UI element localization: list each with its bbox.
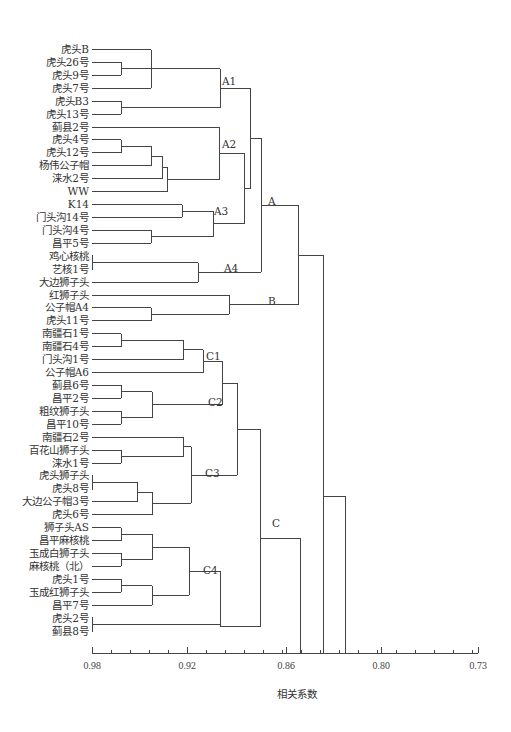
leaf-label: 虎头狮子头	[39, 469, 89, 481]
axis-tick-label: 0.73	[469, 661, 487, 671]
leaf-label: 红狮子头	[49, 289, 89, 301]
leaf-label: 虎头7号	[52, 82, 89, 94]
leaf-label: 狮子头AS	[44, 521, 89, 533]
leaf-label: 虎头11号	[46, 314, 89, 326]
leaf-label: 虎头1号	[52, 573, 89, 585]
leaf-label: 虎头6号	[52, 508, 89, 520]
leaf-label: 涞水1号	[52, 457, 89, 469]
leaf-label: 虎头12号	[46, 146, 89, 158]
x-axis	[92, 647, 478, 653]
leaf-label: 昌平10号	[46, 418, 89, 430]
leaf-label: 玉成白狮子头	[29, 547, 89, 559]
leaf-label: 大边狮子头	[39, 276, 89, 288]
cluster-label: C3	[205, 467, 220, 479]
leaf-label: 门头沟4号	[42, 224, 89, 236]
leaf-label: 昌平7号	[52, 599, 89, 611]
cluster-label: A3	[214, 205, 228, 217]
leaf-label: 公子帽A6	[45, 366, 89, 378]
leaf-label: 虎头B	[61, 43, 89, 55]
leaf-label: 艺核1号	[52, 263, 89, 275]
leaf-label: 玉成红狮子头	[29, 586, 89, 598]
leaf-label: 门头沟1号	[42, 353, 89, 365]
leaf-label: 虎头B3	[55, 95, 89, 107]
leaf-label: 蓟县8号	[52, 625, 89, 637]
cluster-label: A2	[222, 138, 236, 150]
leaf-label: 蓟县2号	[52, 121, 89, 133]
leaf-label: 粗纹狮子头	[39, 405, 89, 417]
leaf-label: 虎头9号	[52, 69, 89, 81]
cluster-label: B	[268, 295, 276, 307]
axis-tick-label: 0.80	[372, 661, 390, 671]
leaf-label: 虎头8号	[52, 482, 89, 494]
cluster-label: C4	[203, 564, 218, 576]
leaf-label: 虎头13号	[46, 108, 89, 120]
leaf-label: 南疆石4号	[42, 340, 89, 352]
leaf-label: 南疆石1号	[42, 327, 89, 339]
cluster-label: C	[272, 517, 280, 529]
cluster-label: A	[268, 195, 276, 207]
x-axis-title: 相关系数	[277, 686, 317, 701]
leaf-label: 昌平2号	[52, 392, 89, 404]
leaf-label: 蓟县6号	[52, 379, 89, 391]
leaf-label: 门头沟14号	[36, 211, 89, 223]
axis-tick-label: 0.98	[83, 661, 101, 671]
leaf-label: K14	[68, 198, 89, 210]
leaf-label: 鸡心核桃	[49, 250, 89, 262]
axis-tick-label: 0.86	[277, 661, 295, 671]
leaf-label: 昌平5号	[52, 237, 89, 249]
leaf-label: 涞水2号	[52, 172, 89, 184]
cluster-label: C2	[208, 396, 223, 408]
cluster-label: A4	[224, 262, 238, 274]
leaf-label: 南疆石2号	[42, 431, 89, 443]
leaf-label: WW	[67, 185, 89, 197]
leaf-label: 虎头26号	[46, 56, 89, 68]
leaf-label: 虎头2号	[52, 612, 89, 624]
leaf-label: 昌平麻核桃	[39, 534, 89, 546]
leaf-label: 杨伟公子帽	[39, 159, 89, 171]
leaf-label: 公子帽A4	[45, 301, 89, 313]
cluster-label: C1	[206, 350, 221, 362]
cluster-label: A1	[222, 75, 236, 87]
axis-tick-label: 0.92	[178, 661, 196, 671]
leaf-label: 大边公子帽3号	[22, 495, 89, 507]
leaf-label: 虎头4号	[52, 133, 89, 145]
leaf-label: 麻核桃（北）	[29, 560, 89, 572]
leaf-label: 百花山狮子头	[29, 444, 89, 456]
